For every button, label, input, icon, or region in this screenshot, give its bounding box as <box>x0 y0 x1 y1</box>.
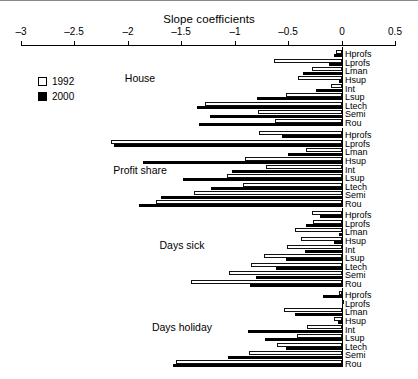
x-axis-tick-label: –3 <box>15 26 26 37</box>
bar-2000 <box>306 224 342 227</box>
bar-2000 <box>161 196 342 199</box>
bar-2000 <box>210 115 342 118</box>
bar-2000 <box>282 135 342 138</box>
x-axis-tick-label: –0.5 <box>278 26 297 37</box>
zero-reference-line <box>342 208 343 287</box>
bar-1992 <box>298 76 342 80</box>
bar-2000 <box>199 123 342 126</box>
x-axis-tick <box>128 41 129 45</box>
bar-2000 <box>276 267 342 270</box>
bar-2000 <box>211 187 342 190</box>
bar-2000 <box>257 97 342 100</box>
legend-swatch-2000-icon <box>38 92 47 101</box>
bar-2000 <box>232 170 342 173</box>
bar-2000 <box>342 304 343 307</box>
bar-2000 <box>305 250 342 253</box>
x-axis-tick-label: –1.5 <box>171 26 190 37</box>
x-axis-tick <box>342 41 343 45</box>
zero-reference-line <box>342 128 343 207</box>
bar-2000 <box>323 295 342 298</box>
bar-2000 <box>339 80 342 83</box>
x-axis-tick <box>288 41 289 45</box>
top-divider-rule <box>0 0 418 1</box>
x-axis-tick <box>21 41 22 45</box>
x-axis-tick-label: –2 <box>122 26 133 37</box>
x-axis-tick <box>395 41 396 45</box>
legend-label-2000: 2000 <box>52 89 74 104</box>
group-label-house: House <box>125 72 155 84</box>
bar-2000 <box>228 356 342 359</box>
legend-item-2000: 2000 <box>38 89 74 104</box>
bar-2000 <box>265 338 342 341</box>
bar-2000 <box>316 89 342 92</box>
bar-1992 <box>295 228 342 232</box>
category-label-rou: Rou <box>345 360 362 369</box>
zero-reference-line <box>342 47 343 126</box>
legend-label-1992: 1992 <box>52 74 74 89</box>
x-axis-tick-label: –2.5 <box>64 26 83 37</box>
bar-2000 <box>139 204 342 207</box>
bar-2000 <box>334 54 342 57</box>
axis-line <box>21 45 396 46</box>
bar-2000 <box>173 364 342 367</box>
bar-2000 <box>143 161 342 164</box>
x-axis-tick-label: 0 <box>339 26 345 37</box>
bar-2000 <box>339 233 342 236</box>
bar-2000 <box>183 178 342 181</box>
x-axis-tick-label: –1 <box>229 26 240 37</box>
bar-2000 <box>286 347 342 350</box>
x-axis-tick <box>181 41 182 45</box>
bar-2000 <box>329 63 342 66</box>
bar-2000 <box>334 241 342 244</box>
legend-item-1992: 1992 <box>38 74 74 89</box>
bar-2000 <box>248 330 342 333</box>
x-axis-tick <box>74 41 75 45</box>
slope-coefficients-chart: Slope coefficients –3–2.5–2–1.5–1–0.500.… <box>0 0 418 379</box>
bar-2000 <box>338 321 342 324</box>
legend-swatch-1992-icon <box>38 77 47 86</box>
bar-2000 <box>197 106 342 109</box>
bar-2000 <box>288 153 342 156</box>
bar-2000 <box>114 144 342 147</box>
bar-2000 <box>303 72 342 75</box>
bar-2000 <box>295 313 342 316</box>
bar-2000 <box>250 284 342 287</box>
category-label-rou: Rou <box>345 200 362 209</box>
category-label-rou: Rou <box>345 280 362 289</box>
group-label-days-holiday: Days holiday <box>152 321 212 333</box>
group-label-profit-share: Profit share <box>113 164 167 176</box>
bar-2000 <box>256 276 342 279</box>
x-axis-tick <box>235 41 236 45</box>
bar-2000 <box>286 258 342 261</box>
legend: 1992 2000 <box>38 74 74 104</box>
chart-title: Slope coefficients <box>0 13 418 25</box>
group-label-days-sick: Days sick <box>160 239 205 251</box>
category-label-rou: Rou <box>345 119 362 128</box>
x-axis-tick-label: 0.5 <box>388 26 402 37</box>
bar-2000 <box>320 215 342 218</box>
